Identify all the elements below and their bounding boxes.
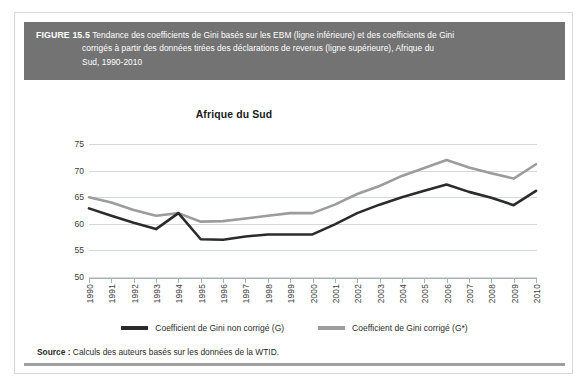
x-tick: [268, 278, 269, 283]
x-axis-ticks: [89, 278, 537, 283]
legend-swatch: [318, 326, 345, 330]
x-tick: [223, 278, 224, 283]
x-tick: [335, 278, 336, 283]
legend-item: Coefficient de Gini corrigé (G*): [318, 323, 468, 333]
x-tick: [469, 278, 470, 283]
caption-line-1: FIGURE 15.5 Tendance des coefficients de…: [36, 29, 557, 42]
x-tick-label: 1992: [130, 284, 140, 303]
legend-label: Coefficient de Gini corrigé (G*): [352, 323, 468, 333]
figure-header-bar: FIGURE 15.5 Tendance des coefficients de…: [24, 22, 565, 80]
x-tick-label: 2002: [353, 284, 363, 303]
x-tick: [402, 278, 403, 283]
x-tick: [514, 278, 515, 283]
chart-title: Afrique du Sud: [24, 109, 444, 120]
y-tick-label: 75: [58, 139, 84, 149]
x-tick-label: 2006: [443, 284, 453, 303]
x-tick-label: 1999: [286, 284, 296, 303]
x-tick-label: 2008: [487, 284, 497, 303]
x-tick: [201, 278, 202, 283]
caption-text-1: Tendance des coefficients de Gini basés …: [92, 30, 454, 40]
x-tick-label: 1993: [152, 284, 162, 303]
legend-label: Coefficient de Gini non corrigé (G): [155, 323, 284, 333]
x-axis-labels: 1990199119921993199419951996199719981999…: [89, 284, 537, 324]
y-tick-label: 60: [58, 219, 84, 229]
x-tick: [134, 278, 135, 283]
x-tick: [447, 278, 448, 283]
x-tick: [313, 278, 314, 283]
x-tick: [290, 278, 291, 283]
caption-line-2: corrigés à partir des données tirées des…: [36, 42, 557, 55]
y-axis-labels: 757065605550: [52, 144, 84, 278]
x-tick: [357, 278, 358, 283]
series-lines: [89, 144, 537, 278]
x-tick-label: 2010: [532, 284, 542, 303]
legend-item: Coefficient de Gini non corrigé (G): [121, 323, 284, 333]
chart-legend: Coefficient de Gini non corrigé (G)Coeff…: [24, 320, 565, 336]
x-tick: [111, 278, 112, 283]
x-tick-label: 2007: [465, 284, 475, 303]
legend-swatch: [121, 326, 148, 330]
x-tick: [424, 278, 425, 283]
x-tick-label: 2001: [331, 284, 341, 303]
figure-number: FIGURE 15.5: [36, 30, 90, 40]
y-tick-label: 65: [58, 192, 84, 202]
x-tick: [89, 278, 90, 283]
x-tick: [156, 278, 157, 283]
x-tick-label: 2005: [420, 284, 430, 303]
y-tick-label: 50: [58, 272, 84, 282]
source-label: Source :: [37, 347, 71, 357]
x-tick-label: 2003: [376, 284, 386, 303]
x-tick-label: 2009: [510, 284, 520, 303]
x-tick-label: 1995: [197, 284, 207, 303]
x-tick-label: 1991: [107, 284, 117, 303]
y-tick-label: 55: [58, 245, 84, 255]
x-tick-label: 1990: [85, 284, 95, 303]
figure-screenshot: FIGURE 15.5 Tendance des coefficients de…: [0, 0, 587, 388]
x-tick-label: 1994: [174, 284, 184, 303]
caption-line-3: Sud, 1990-2010: [36, 56, 557, 69]
figure-caption: FIGURE 15.5 Tendance des coefficients de…: [36, 29, 557, 69]
footer-divider: [24, 363, 565, 366]
x-tick: [245, 278, 246, 283]
chart-container: Afrique du Sud 757065605550 199019911992…: [24, 85, 565, 330]
y-tick-label: 70: [58, 166, 84, 176]
x-tick-label: 1997: [241, 284, 251, 303]
x-tick-label: 1998: [264, 284, 274, 303]
figure-card: FIGURE 15.5 Tendance des coefficients de…: [14, 12, 573, 374]
x-tick-label: 2000: [309, 284, 319, 303]
source-note: Source : Calculs des auteurs basés sur l…: [37, 347, 279, 357]
x-tick: [380, 278, 381, 283]
x-tick: [178, 278, 179, 283]
plot-area: [89, 144, 537, 278]
source-text: Calculs des auteurs basés sur les donnée…: [73, 347, 279, 357]
x-tick: [536, 278, 537, 283]
x-tick: [491, 278, 492, 283]
x-tick-label: 2004: [398, 284, 408, 303]
x-tick-label: 1996: [219, 284, 229, 303]
